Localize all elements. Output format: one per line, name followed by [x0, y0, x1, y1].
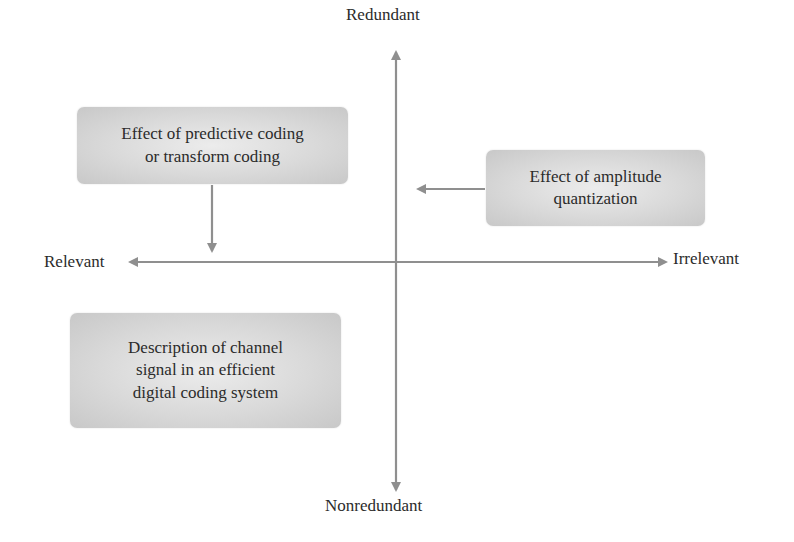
axis-label-redundant: Redundant	[346, 6, 420, 23]
box-channel-signal: Description of channel signal in an effi…	[70, 313, 341, 428]
axis-label-irrelevant: Irrelevant	[673, 250, 739, 267]
axis-label-relevant: Relevant	[44, 253, 104, 270]
axis-label-nonredundant: Nonredundant	[325, 497, 422, 514]
box-channel-signal-text: Description of channel signal in an effi…	[128, 337, 283, 403]
box-amplitude-quantization-text: Effect of amplitude quantization	[530, 166, 662, 210]
box-amplitude-quantization: Effect of amplitude quantization	[486, 150, 705, 226]
box-predictive-coding: Effect of predictive coding or transform…	[77, 107, 348, 184]
axes-and-arrows	[0, 0, 794, 542]
quadrant-diagram: Redundant Nonredundant Relevant Irreleva…	[0, 0, 794, 542]
box-predictive-coding-text: Effect of predictive coding or transform…	[121, 123, 303, 167]
